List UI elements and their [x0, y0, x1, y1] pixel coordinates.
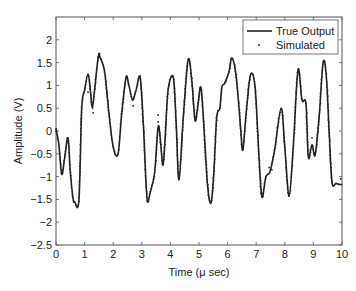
legend-true-output: True Output [276, 25, 334, 37]
y-tick-label: −0.5 [30, 148, 52, 160]
x-tick-label: 1 [82, 248, 88, 260]
y-tick-label: 0.5 [37, 102, 52, 114]
y-tick-label: 2 [46, 34, 52, 46]
y-tick-label: −1 [39, 171, 52, 183]
legend-dot-swatch [258, 44, 260, 46]
line-chart: 012345678910 −2.5−2−1.5−1−0.500.511.52 T… [0, 0, 356, 291]
y-tick-labels: −2.5−2−1.5−1−0.500.511.52 [30, 34, 52, 251]
y-tick-label: 0 [46, 125, 52, 137]
x-tick-label: 3 [139, 248, 145, 260]
x-axis-label: Time (μ sec) [169, 266, 230, 278]
y-tick-label: −2 [39, 216, 52, 228]
x-tick-label: 9 [310, 248, 316, 260]
y-tick-label: −2.5 [30, 239, 52, 251]
y-tick-label: −1.5 [30, 193, 52, 205]
x-tick-label: 0 [53, 248, 59, 260]
y-axis-label: Amplitude (V) [12, 98, 24, 165]
chart: 012345678910 −2.5−2−1.5−1−0.500.511.52 T… [0, 0, 356, 291]
y-tick-label: 1 [46, 79, 52, 91]
legend-simulated: Simulated [276, 39, 325, 51]
x-tick-label: 5 [196, 248, 202, 260]
x-tick-label: 8 [282, 248, 288, 260]
x-tick-label: 2 [110, 248, 116, 260]
y-tick-label: 1.5 [37, 57, 52, 69]
x-tick-label: 4 [167, 248, 173, 260]
x-tick-label: 10 [336, 248, 348, 260]
legend: True Output Simulated [243, 20, 338, 54]
x-tick-label: 7 [253, 248, 259, 260]
x-tick-labels: 012345678910 [53, 248, 348, 260]
x-tick-label: 6 [225, 248, 231, 260]
